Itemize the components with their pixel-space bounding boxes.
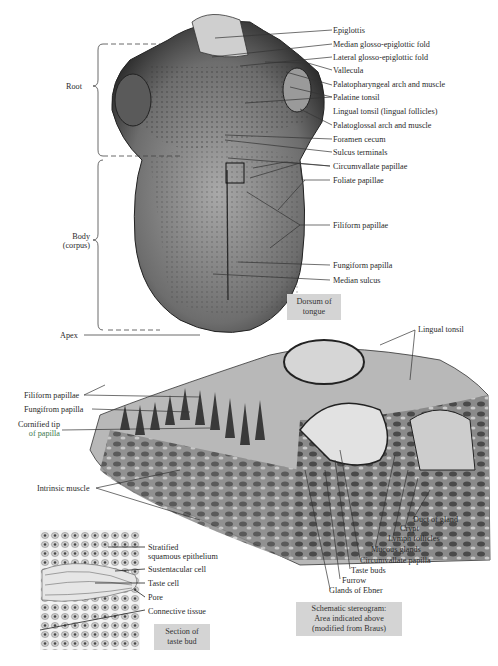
stereogram-illustration xyxy=(90,340,490,565)
region-apex-label: Apex xyxy=(60,331,78,340)
label-lingual-tonsil: Lingual tonsil xyxy=(418,325,464,334)
label-vallecula: Vallecula xyxy=(333,66,363,75)
label-foramen-cecum: Foramen cecum xyxy=(333,135,386,144)
dorsum-caption-line2: tongue xyxy=(296,307,331,317)
label-lymph-follicles: Lymph follicles xyxy=(388,534,440,543)
region-root-label: Root xyxy=(66,82,82,91)
label-filiform-papillae: Filiform papillae xyxy=(333,221,388,230)
taste-bud-caption: Section of taste bud xyxy=(154,624,210,650)
taste-bud-caption-line2: taste bud xyxy=(165,637,198,647)
label-stratified-epithelium: Stratified squamous epithelium xyxy=(148,543,218,561)
label-stereo-fungiform-papilla: Fungifrom papilla xyxy=(24,405,83,414)
region-body-label: Body (corpus) xyxy=(56,232,90,250)
label-pore: Pore xyxy=(148,593,163,602)
label-sustentacular-cell: Sustentacular cell xyxy=(148,565,206,574)
label-palatopharyngeal-arch: Palatopharyngeal arch and muscle xyxy=(333,80,445,89)
label-circumvallate-papillae: Circumvallate papillae xyxy=(333,162,407,171)
label-taste-buds: Taste buds xyxy=(351,566,386,575)
stereogram-caption-line1: Schematic stereogram: xyxy=(312,604,387,614)
label-mucous-glands: Mucous glands xyxy=(371,545,421,554)
label-connective-tissue: Connective tissue xyxy=(148,607,206,616)
dorsum-caption: Dorsum of tongue xyxy=(287,294,341,320)
label-stereo-filiform-papillae: Filiform papillae xyxy=(24,391,79,400)
label-taste-cell: Taste cell xyxy=(148,579,179,588)
stratified-line1: Stratified xyxy=(148,543,218,552)
label-cornified-tip: Cornified tip of papilla xyxy=(16,420,60,438)
label-fungiform-papilla: Fungiform papilla xyxy=(333,261,392,270)
label-duct-of-gland: Duct of gland xyxy=(413,515,458,524)
region-body-line1: Body xyxy=(56,232,90,241)
tongue-dorsum-illustration xyxy=(112,14,324,332)
stratified-line2: squamous epithelium xyxy=(148,552,218,561)
label-median-sulcus: Median sulcus xyxy=(333,276,381,285)
label-circumvallate-papilla: Circumvallate papilla xyxy=(360,556,431,565)
stereogram-caption-line3: (modified from Braus) xyxy=(312,624,387,634)
taste-bud-caption-line1: Section of xyxy=(165,627,198,637)
label-crypt: Crypt xyxy=(400,524,419,533)
label-intrinsic-muscle: Intrinsic muscle xyxy=(37,484,90,493)
cornified-line2: of papilla xyxy=(16,429,60,438)
label-sulcus-terminals: Sulcus terminals xyxy=(333,148,387,157)
stereogram-caption: Schematic stereogram: Area indicated abo… xyxy=(296,602,402,636)
label-epiglottis: Epiglottis xyxy=(333,26,365,35)
label-palatoglossal-arch: Palatoglossal arch and muscle xyxy=(333,121,431,130)
label-lingual-tonsil-follicles: Lingual tonsil (lingual follicles) xyxy=(333,107,437,116)
cornified-line1: Cornified tip xyxy=(16,420,60,429)
label-foliate-papillae: Foliate papillae xyxy=(333,176,384,185)
dorsum-caption-line1: Dorsum of xyxy=(296,297,331,307)
label-median-glosso-epiglottic-fold: Median glosso-epiglottic fold xyxy=(333,40,430,49)
label-lateral-glosso-epiglottic-fold: Lateral glosso-epiglottic fold xyxy=(333,53,428,62)
taste-bud-illustration xyxy=(40,530,140,650)
stereogram-caption-line2: Area indicated above xyxy=(312,614,387,624)
region-body-line2: (corpus) xyxy=(56,241,90,250)
label-glands-of-ebner: Glands of Ebner xyxy=(329,586,383,595)
label-palatine-tonsil: Palatine tonsil xyxy=(333,93,380,102)
label-furrow: Furrow xyxy=(342,576,366,585)
